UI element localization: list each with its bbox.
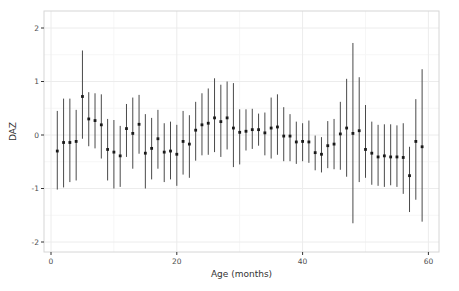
data-point [219,120,222,123]
data-point [370,152,373,155]
data-point [56,150,59,153]
data-point [163,151,166,154]
data-point [270,127,273,130]
data-point [169,150,172,153]
data-point [201,123,204,126]
data-point [131,132,134,135]
daz-age-errorbar-chart: 210-1-20204060Age (months)DAZ [0,0,459,291]
data-point [238,131,241,134]
plot-panel [44,11,439,252]
x-tick-label: 0 [49,257,54,266]
data-point [226,116,229,119]
data-point [282,135,285,138]
data-point [81,95,84,98]
data-point [232,127,235,130]
data-point [150,147,153,150]
data-point [182,140,185,143]
chart-canvas: 210-1-20204060Age (months)DAZ [0,0,459,291]
data-point [326,144,329,147]
data-point [213,116,216,119]
data-point [87,118,90,121]
data-point [106,148,109,151]
x-axis-title: Age (months) [211,269,272,279]
data-point [94,119,97,122]
data-point [396,156,399,159]
data-point [245,130,248,133]
data-point [75,140,78,143]
y-tick-label: 0 [34,131,39,140]
data-point [339,133,342,136]
data-point [62,141,65,144]
y-tick-label: 1 [34,77,39,86]
data-point [389,156,392,159]
data-point [314,151,317,154]
data-point [408,174,411,177]
data-point [207,122,210,125]
data-point [100,123,103,126]
data-point [119,154,122,157]
data-point [402,156,405,159]
y-tick-label: 2 [34,24,39,33]
data-point [383,154,386,157]
data-point [320,153,323,156]
data-point [345,127,348,130]
data-point [188,143,191,146]
y-tick-label: -1 [32,184,40,193]
x-tick-label: 40 [298,257,308,266]
data-point [125,127,128,130]
data-point [377,156,380,159]
data-point [68,141,71,144]
data-point [289,135,292,138]
data-point [175,153,178,156]
data-point [251,128,254,131]
data-point [138,123,141,126]
data-point [295,141,298,144]
data-point [358,129,361,132]
data-point [194,129,197,132]
data-point [144,152,147,155]
x-tick-label: 60 [424,257,434,266]
data-point [301,140,304,143]
data-point [276,126,279,129]
data-point [352,132,355,135]
data-point [263,131,266,134]
data-point [333,143,336,146]
data-point [113,151,116,154]
data-point [307,141,310,144]
data-point [157,137,160,140]
x-tick-label: 20 [172,257,182,266]
data-point [421,145,424,148]
data-point [257,128,260,131]
y-axis-title: DAZ [8,122,18,141]
data-point [364,148,367,151]
y-tick-label: -2 [32,238,40,247]
data-point [414,140,417,143]
